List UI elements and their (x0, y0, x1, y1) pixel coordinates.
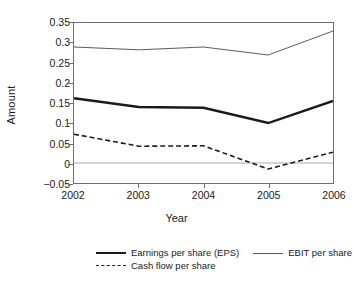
legend-item[interactable]: Earnings per share (EPS) (96, 247, 239, 258)
legend-label: EBIT per share (288, 247, 352, 258)
legend-label: Cash flow per share (131, 260, 215, 271)
series-line-2 (74, 134, 333, 169)
x-tick-mark (269, 184, 270, 188)
y-axis-title-text: Amount (5, 85, 17, 124)
y-tick-label: 0.1 (28, 118, 70, 128)
x-tick-label: 2002 (50, 189, 96, 201)
x-tick-mark (204, 184, 205, 188)
y-tick-mark (68, 184, 73, 185)
legend-row-secondary: Cash flow per share (0, 259, 353, 272)
legend-item[interactable]: EBIT per share (253, 247, 352, 258)
x-tick-mark (138, 184, 139, 188)
chart-legend: Earnings per share (EPS)EBIT per share C… (0, 246, 353, 272)
legend-item[interactable]: Cash flow per share (96, 260, 215, 271)
y-axis-title: Amount (4, 50, 18, 160)
x-axis-title-text: Year (165, 212, 187, 224)
x-tick-label: 2004 (181, 189, 227, 201)
y-tick-label: 0 (28, 159, 70, 169)
legend-row-primary: Earnings per share (EPS)EBIT per share (0, 246, 353, 259)
x-axis-title: Year (0, 212, 353, 224)
legend-label: Earnings per share (EPS) (131, 247, 239, 258)
y-tick-label: 0.2 (28, 78, 70, 88)
y-tick-label: 0.3 (28, 37, 70, 47)
y-tick-label: 0.05 (28, 139, 70, 149)
y-tick-label: 0.25 (28, 58, 70, 68)
legend-line-swatch-icon (96, 262, 126, 270)
y-tick-label: 0.15 (28, 98, 70, 108)
x-tick-label: 2006 (311, 189, 353, 201)
x-tick-label: 2003 (115, 189, 161, 201)
plot-area (73, 22, 334, 184)
series-line-1 (74, 31, 333, 55)
y-tick-label: 0.35 (28, 17, 70, 27)
x-tick-label: 2005 (246, 189, 292, 201)
line-chart: Amount 0.350.30.250.20.150.10.050−0.05 2… (0, 0, 353, 286)
series-line-0 (74, 98, 333, 123)
legend-line-swatch-icon (96, 249, 126, 257)
y-tick-label: −0.05 (28, 179, 70, 189)
plot-lines (74, 23, 333, 183)
legend-line-swatch-icon (253, 249, 283, 257)
